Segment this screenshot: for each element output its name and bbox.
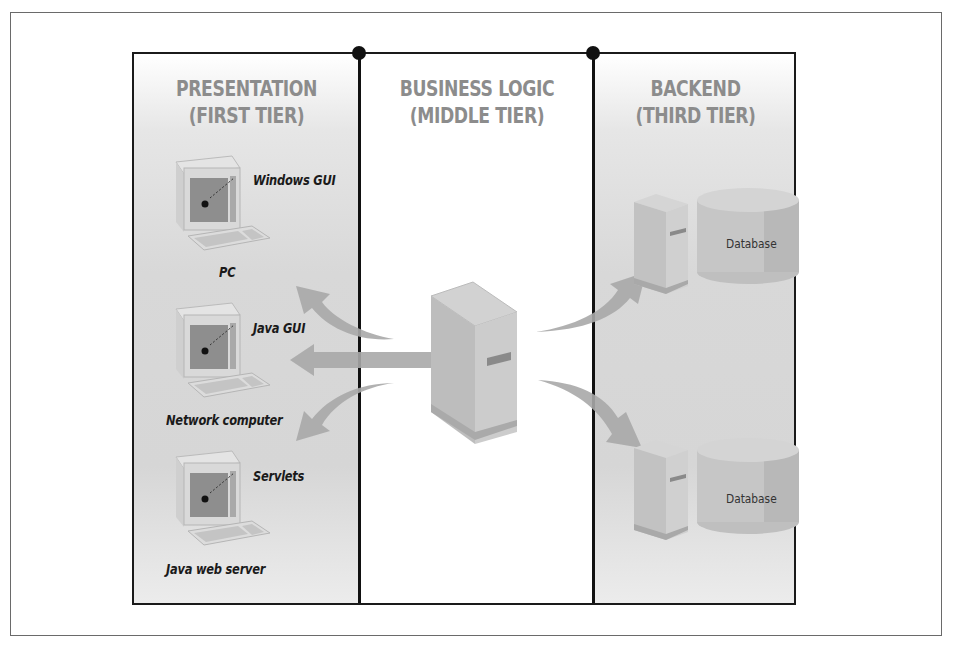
- application-server-icon: [429, 282, 529, 452]
- arrow-to-network-computer-icon: [284, 344, 444, 384]
- tier-title-line1: BACKEND: [613, 76, 778, 103]
- database-1-label: Database: [726, 236, 777, 251]
- tier-title-line1: BUSINESS LOGIC: [382, 76, 572, 103]
- pc-caption: PC: [219, 264, 235, 280]
- network-computer-caption: Network computer: [166, 412, 283, 428]
- java-web-server-caption: Java web server: [166, 561, 265, 577]
- tier-title-line1: PRESENTATION: [154, 76, 339, 103]
- business-logic-tier-title: BUSINESS LOGIC (MIDDLE TIER): [382, 76, 572, 130]
- network-computer-icon: [172, 301, 282, 416]
- divider-dot-2: [586, 46, 600, 60]
- tier-title-line2: (FIRST TIER): [154, 103, 339, 130]
- backend-tier-title: BACKEND (THIRD TIER): [613, 76, 778, 130]
- tier-title-line2: (THIRD TIER): [613, 103, 778, 130]
- database-2-label: Database: [726, 491, 777, 506]
- arrow-to-java-web-server-icon: [274, 379, 424, 479]
- tier-title-line2: (MIDDLE TIER): [382, 103, 572, 130]
- windows-gui-callout: Windows GUI: [253, 172, 335, 188]
- java-web-server-icon: [172, 449, 282, 564]
- presentation-tier-title: PRESENTATION (FIRST TIER): [154, 76, 339, 130]
- database-2-icon: [694, 432, 806, 544]
- three-tier-diagram: PRESENTATION (FIRST TIER) BUSINESS LOGIC…: [132, 52, 796, 605]
- divider-dot-1: [352, 46, 366, 60]
